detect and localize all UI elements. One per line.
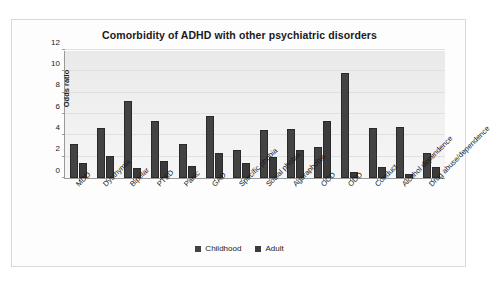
bar-group bbox=[201, 51, 228, 178]
legend-item: Childhood bbox=[195, 244, 241, 253]
legend-label: Childhood bbox=[205, 244, 241, 253]
y-tick-label: 2 bbox=[56, 144, 60, 153]
bar-series-container bbox=[65, 51, 445, 178]
y-tick-label: 12 bbox=[51, 37, 60, 46]
y-tick-label: 0 bbox=[56, 165, 60, 174]
bar-childhood bbox=[179, 144, 187, 178]
legend-label: Adult bbox=[265, 244, 283, 253]
bar-childhood bbox=[97, 128, 105, 178]
chart-legend: ChildhoodAdult bbox=[12, 244, 467, 253]
bar-group bbox=[146, 51, 173, 178]
y-tick-label: 8 bbox=[56, 80, 60, 89]
bar-group bbox=[364, 51, 391, 178]
bar-childhood bbox=[341, 73, 349, 178]
bar-group bbox=[92, 51, 119, 178]
bar-childhood bbox=[151, 121, 159, 178]
bar-childhood bbox=[233, 150, 241, 178]
y-tick-label: 4 bbox=[56, 122, 60, 131]
y-tick-mark bbox=[62, 49, 65, 50]
y-tick-label: 10 bbox=[51, 58, 60, 67]
chart-figure: Comorbidity of ADHD with other psychiatr… bbox=[11, 19, 466, 267]
bar-group bbox=[65, 51, 92, 178]
bar-group bbox=[174, 51, 201, 178]
bar-childhood bbox=[70, 144, 78, 178]
y-tick-label: 6 bbox=[56, 101, 60, 110]
bar-group bbox=[228, 51, 255, 178]
bar-group bbox=[336, 51, 363, 178]
chart-title: Comorbidity of ADHD with other psychiatr… bbox=[12, 29, 467, 41]
gridline bbox=[65, 49, 445, 50]
legend-item: Adult bbox=[255, 244, 283, 253]
bar-childhood bbox=[206, 116, 214, 178]
legend-swatch-icon bbox=[255, 246, 261, 252]
plot-area: 024681012 Odds ratio bbox=[64, 51, 445, 179]
bar-group bbox=[391, 51, 418, 178]
bar-childhood bbox=[369, 128, 377, 178]
legend-swatch-icon bbox=[195, 246, 201, 252]
